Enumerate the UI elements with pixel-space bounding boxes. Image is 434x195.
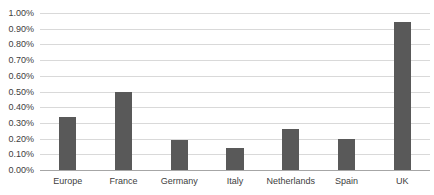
bar[interactable]: [282, 129, 299, 170]
y-axis-tick-label: 1.00%: [0, 9, 34, 18]
bar-slot: [151, 13, 207, 170]
bars-layer: [40, 13, 430, 170]
y-axis-tick-label: 0.10%: [0, 150, 34, 159]
y-axis-tick-label: 0.40%: [0, 103, 34, 112]
x-axis-tick-label: Europe: [40, 174, 96, 192]
bar[interactable]: [171, 140, 188, 170]
x-axis-tick-label: Netherlands: [263, 174, 319, 192]
bar-slot: [96, 13, 152, 170]
bar[interactable]: [226, 148, 243, 170]
bar[interactable]: [338, 139, 355, 170]
bar[interactable]: [59, 117, 76, 170]
bar[interactable]: [115, 92, 132, 171]
bar-chart: 0.00%0.10%0.20%0.30%0.40%0.50%0.60%0.70%…: [0, 0, 434, 195]
x-axis-tick-label: Italy: [207, 174, 263, 192]
bar-slot: [263, 13, 319, 170]
x-axis-line: [40, 170, 430, 171]
x-axis-tick-label: Germany: [151, 174, 207, 192]
x-axis-tick-label: UK: [374, 174, 430, 192]
x-axis-labels: EuropeFranceGermanyItalyNetherlandsSpain…: [40, 174, 430, 192]
x-axis-tick-label: France: [96, 174, 152, 192]
bar-slot: [374, 13, 430, 170]
y-axis-tick-label: 0.60%: [0, 71, 34, 80]
y-axis: 0.00%0.10%0.20%0.30%0.40%0.50%0.60%0.70%…: [0, 0, 38, 178]
y-axis-tick-label: 0.00%: [0, 166, 34, 175]
y-axis-tick-label: 0.30%: [0, 118, 34, 127]
bar-slot: [207, 13, 263, 170]
y-axis-tick-label: 0.20%: [0, 134, 34, 143]
bar-slot: [40, 13, 96, 170]
bar[interactable]: [394, 22, 411, 170]
y-axis-tick-label: 0.90%: [0, 24, 34, 33]
y-axis-tick-label: 0.70%: [0, 56, 34, 65]
x-axis-tick-label: Spain: [319, 174, 375, 192]
bar-slot: [319, 13, 375, 170]
y-axis-tick-label: 0.80%: [0, 40, 34, 49]
y-axis-tick-label: 0.50%: [0, 87, 34, 96]
